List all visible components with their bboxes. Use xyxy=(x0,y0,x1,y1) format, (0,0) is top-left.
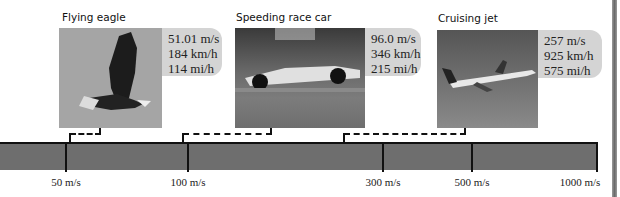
jet-speed-ms: 257 m/s xyxy=(544,33,598,48)
race-car-photo xyxy=(235,28,365,128)
tick-1000 xyxy=(596,142,598,172)
tick-500 xyxy=(471,142,473,172)
eagle-speed-kmh: 184 km/h xyxy=(168,46,218,61)
tick-300 xyxy=(382,142,384,172)
speed-scale-bar xyxy=(0,144,597,170)
jet-speed-mih: 575 mi/h xyxy=(544,63,598,78)
tick-label-1000: 1000 m/s xyxy=(560,176,601,188)
race-car-speed-callout: 96.0 m/s 346 km/h 215 mi/h xyxy=(365,28,421,76)
eagle-speed-mih: 114 mi/h xyxy=(168,61,218,76)
jet-speed-kmh: 925 km/h xyxy=(544,48,598,63)
tick-label-500: 500 m/s xyxy=(454,176,489,188)
race-car-connector-dashed xyxy=(183,133,272,135)
tick-label-50: 50 m/s xyxy=(51,176,81,188)
eagle-photo xyxy=(59,28,162,128)
race-car-title: Speeding race car xyxy=(236,11,331,23)
page-edge-border xyxy=(612,0,617,197)
speed-scale-top-line xyxy=(0,142,598,144)
jet-connector-dashed xyxy=(344,133,466,135)
race-car-speed-mih: 215 mi/h xyxy=(371,61,417,76)
jet-icon xyxy=(437,30,538,128)
race-car-speed-kmh: 346 km/h xyxy=(371,46,417,61)
jet-title: Cruising jet xyxy=(438,12,498,24)
eagle-connector-dashed xyxy=(70,133,101,135)
tick-100 xyxy=(187,142,189,172)
jet-photo xyxy=(437,30,538,128)
tick-50 xyxy=(65,142,67,172)
race-car-icon xyxy=(235,28,365,128)
eagle-speed-ms: 51.01 m/s xyxy=(168,31,218,46)
tick-label-300: 300 m/s xyxy=(365,176,400,188)
eagle-title: Flying eagle xyxy=(62,11,126,23)
eagle-speed-callout: 51.01 m/s 184 km/h 114 mi/h xyxy=(162,28,222,76)
jet-speed-callout: 257 m/s 925 km/h 575 mi/h xyxy=(538,30,602,78)
race-car-speed-ms: 96.0 m/s xyxy=(371,31,417,46)
eagle-icon xyxy=(59,28,162,128)
tick-label-100: 100 m/s xyxy=(170,176,205,188)
